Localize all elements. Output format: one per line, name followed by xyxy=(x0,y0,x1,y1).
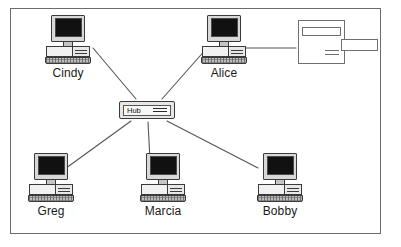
printer-control-lines-icon xyxy=(325,50,339,56)
drive-bay-right xyxy=(229,47,245,56)
drive-bay-right xyxy=(56,185,72,194)
hub-port-indicators-icon xyxy=(153,107,167,114)
desktop-computer-icon xyxy=(140,153,186,203)
drive-bay-right xyxy=(168,185,184,194)
monitor-icon xyxy=(263,153,297,180)
monitor-screen xyxy=(211,18,238,37)
drive-bay-left xyxy=(259,185,285,194)
node-cindy[interactable]: Cindy xyxy=(33,15,103,81)
computer-tower xyxy=(46,46,90,57)
monitor-screen xyxy=(267,156,294,175)
monitor-screen xyxy=(150,156,177,175)
network-hub-icon: Hub xyxy=(119,101,175,119)
node-hub[interactable]: Hub xyxy=(119,101,175,119)
hub-faceplate: Hub xyxy=(123,105,171,116)
network-diagram: Cindy Alice Gr xyxy=(0,0,401,247)
drive-bay-right xyxy=(285,185,301,194)
desktop-computer-icon xyxy=(201,15,247,65)
drive-bay-left xyxy=(142,185,168,194)
monitor-icon xyxy=(146,153,180,180)
monitor-icon xyxy=(207,15,241,42)
computer-tower xyxy=(202,46,246,57)
node-label-marcia: Marcia xyxy=(128,204,198,219)
monitor-screen xyxy=(38,156,65,175)
monitor-icon xyxy=(51,15,85,42)
computer-tower xyxy=(141,184,185,195)
node-marcia[interactable]: Marcia xyxy=(128,153,198,219)
keyboard-icon xyxy=(45,57,91,64)
printer-paper-slot xyxy=(302,27,341,36)
hub-label: Hub xyxy=(126,106,141,115)
node-printer[interactable] xyxy=(298,20,378,64)
node-alice[interactable]: Alice xyxy=(189,15,259,81)
desktop-computer-icon xyxy=(257,153,303,203)
computer-tower xyxy=(29,184,73,195)
keyboard-icon xyxy=(28,195,74,202)
keyboard-icon xyxy=(140,195,186,202)
node-label-bobby: Bobby xyxy=(245,204,315,219)
printer-output-tray xyxy=(341,39,378,51)
node-greg[interactable]: Greg xyxy=(16,153,86,219)
desktop-computer-icon xyxy=(28,153,74,203)
computer-tower xyxy=(258,184,302,195)
desktop-computer-icon xyxy=(45,15,91,65)
drive-bay-right xyxy=(73,47,89,56)
drive-bay-left xyxy=(30,185,56,194)
printer-icon xyxy=(298,20,345,64)
node-label-cindy: Cindy xyxy=(33,66,103,81)
monitor-icon xyxy=(34,153,68,180)
monitor-screen xyxy=(55,18,82,37)
drive-bay-left xyxy=(47,47,73,56)
keyboard-icon xyxy=(257,195,303,202)
node-label-alice: Alice xyxy=(189,66,259,81)
node-label-greg: Greg xyxy=(16,204,86,219)
node-bobby[interactable]: Bobby xyxy=(245,153,315,219)
keyboard-icon xyxy=(201,57,247,64)
drive-bay-left xyxy=(203,47,229,56)
